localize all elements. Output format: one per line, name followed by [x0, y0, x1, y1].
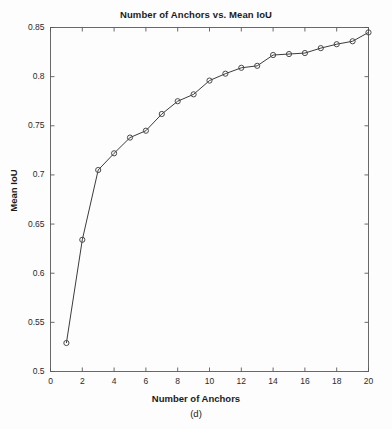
y-tick-label: 0.55 [4, 317, 45, 327]
y-tick-label: 0.8 [4, 71, 45, 81]
x-tick-label: 6 [132, 376, 160, 386]
plot-border [51, 28, 369, 372]
x-tick-label: 4 [100, 376, 128, 386]
x-tick-label: 16 [291, 376, 319, 386]
x-tick-label: 10 [196, 376, 224, 386]
figure-panel: Number of Anchors vs. Mean IoU 0.50.550.… [0, 0, 392, 429]
x-tick-label: 2 [68, 376, 96, 386]
x-tick-label: 8 [164, 376, 192, 386]
plot-frame [51, 28, 369, 372]
series-line [66, 32, 368, 343]
x-tick-label: 20 [355, 376, 383, 386]
x-axis-label: Number of Anchors [0, 393, 392, 404]
x-tick-label: 0 [37, 376, 65, 386]
x-tick-label: 14 [259, 376, 287, 386]
y-tick-label: 0.85 [4, 22, 45, 32]
figure-caption: (d) [0, 408, 392, 419]
y-tick-label: 0.75 [4, 120, 45, 130]
chart-plot-area [0, 0, 392, 429]
data-series-mean-iou [66, 32, 368, 343]
axis-ticks [51, 28, 369, 372]
y-tick-label: 0.6 [4, 268, 45, 278]
y-axis-label: Mean IoU [8, 156, 19, 226]
x-tick-label: 12 [227, 376, 255, 386]
y-tick-label: 0.5 [4, 366, 45, 376]
x-tick-label: 18 [323, 376, 351, 386]
